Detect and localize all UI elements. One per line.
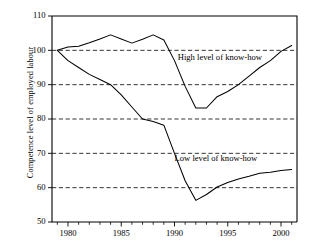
x-tick-label-1990: 1990 [166,228,183,238]
y-tick-label-60: 60 [37,182,46,192]
chart-figure: Competence level of employed labour High… [0,0,309,250]
y-tick-label-80: 80 [37,113,46,123]
y-tick-label-70: 70 [37,148,46,158]
gridlines-group [52,50,297,187]
series-line-1 [57,50,291,200]
series-label-0: High level of know-how [178,52,263,62]
line-chart-plot: High level of know-howLow level of know-… [0,0,309,250]
y-axis-ticks [48,16,52,222]
x-tick-label-1995: 1995 [219,228,236,238]
series-line-0 [57,35,291,108]
y-tick-label-50: 50 [37,216,46,226]
series-annotations: High level of know-howLow level of know-… [175,52,263,163]
x-tick-label-1985: 1985 [113,228,130,238]
x-axis-tick-labels: 19801985199019952000 [59,228,289,238]
x-axis-ticks [57,222,291,227]
y-tick-label-110: 110 [33,10,46,20]
y-tick-label-90: 90 [37,79,46,89]
series-label-1: Low level of know-how [175,153,259,163]
x-tick-label-2000: 2000 [272,228,289,238]
x-tick-label-1980: 1980 [59,228,76,238]
y-tick-label-100: 100 [33,45,46,55]
y-axis-tick-labels: 5060708090100110 [33,10,46,226]
